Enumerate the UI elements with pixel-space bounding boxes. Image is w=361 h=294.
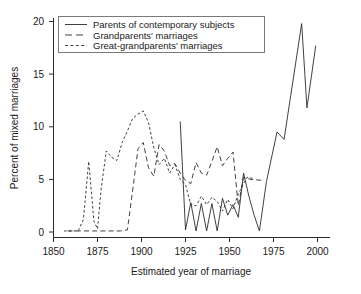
y-tick-label-0: 0 <box>38 227 44 238</box>
x-tick-label-1925: 1925 <box>174 246 197 257</box>
x-tick-label-1850: 1850 <box>42 246 65 257</box>
y-axis-title: Percent of mixed marriages <box>9 67 20 189</box>
x-tick-label-1900: 1900 <box>130 246 153 257</box>
x-tick-label-1975: 1975 <box>262 246 285 257</box>
legend-label-great-grandparents: Great-grandparents' marriages <box>93 40 223 51</box>
x-axis-ticks: 1850 1875 1900 1925 1950 1975 2000 <box>42 238 329 258</box>
y-tick-label-15: 15 <box>33 69 45 80</box>
x-tick-label-1875: 1875 <box>86 246 109 257</box>
y-tick-label-10: 10 <box>33 121 45 132</box>
y-tick-label-20: 20 <box>33 16 45 27</box>
data-series-group <box>64 24 316 231</box>
series-great-grandparents <box>64 111 252 231</box>
legend-label-grandparents: Grandparents' marriages <box>93 30 198 41</box>
y-tick-label-5: 5 <box>38 174 44 185</box>
x-axis-title: Estimated year of marriage <box>131 266 251 277</box>
legend: Parents of contemporary subjects Grandpa… <box>59 17 265 53</box>
x-tick-label-1950: 1950 <box>218 246 241 257</box>
legend-label-parents: Parents of contemporary subjects <box>93 19 235 30</box>
chart-figure: 20 15 10 5 0 1850 1875 1900 1925 1950 19… <box>0 0 361 294</box>
x-tick-label-2000: 2000 <box>306 246 329 257</box>
line-chart: 20 15 10 5 0 1850 1875 1900 1925 1950 19… <box>0 0 361 294</box>
series-grandparents <box>68 143 263 231</box>
series-parents <box>180 24 316 231</box>
y-axis-ticks: 20 15 10 5 0 <box>33 16 54 238</box>
